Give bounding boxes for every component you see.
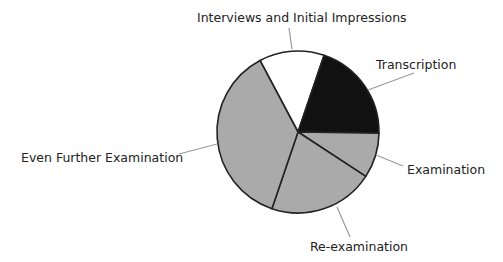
slice-label: Even Further Examination bbox=[21, 150, 183, 165]
leader-line bbox=[376, 155, 403, 166]
pie-slices bbox=[217, 51, 379, 213]
slice-label: Re-examination bbox=[310, 239, 408, 254]
leader-line bbox=[337, 207, 350, 237]
slice-label: Transcription bbox=[375, 57, 456, 72]
pie-chart: Interviews and Initial ImpressionsTransc… bbox=[0, 0, 503, 262]
leader-line bbox=[289, 28, 292, 49]
leader-line bbox=[368, 73, 414, 90]
slice-label: Examination bbox=[407, 162, 485, 177]
slice-label: Interviews and Initial Impressions bbox=[197, 10, 407, 25]
leader-line bbox=[179, 144, 217, 154]
